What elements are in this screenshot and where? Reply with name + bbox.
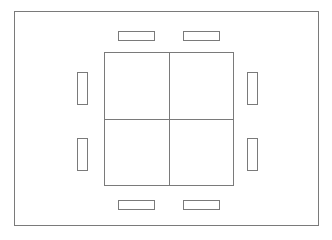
center-panel: [104, 52, 234, 186]
tab-left-lower: [77, 138, 88, 171]
tab-right-lower: [247, 138, 258, 171]
tab-right-upper: [247, 72, 258, 105]
panel-horizontal-divider: [105, 119, 233, 120]
tab-top-right: [183, 31, 220, 41]
tab-bottom-left: [118, 200, 155, 210]
tab-left-upper: [77, 72, 88, 105]
tab-top-left: [118, 31, 155, 41]
tab-bottom-right: [183, 200, 220, 210]
diagram-canvas: [0, 0, 332, 240]
